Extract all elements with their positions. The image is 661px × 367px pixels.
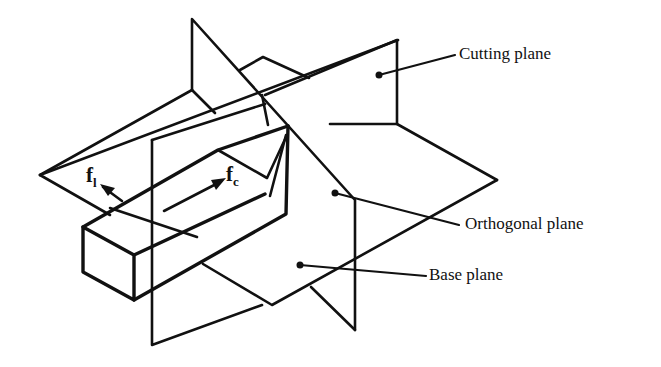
feed-force-label: fl: [86, 165, 97, 189]
cutting-plane-label: Cutting plane: [459, 45, 551, 62]
cutting-plane-leader: [376, 55, 456, 79]
base-plane-label: Base plane: [429, 266, 503, 283]
cutting-force-arrow: [164, 178, 226, 211]
cutting-force-symbol: f: [226, 162, 233, 186]
tool-body: [83, 126, 288, 300]
orthogonal-plane-label: Orthogonal plane: [465, 215, 584, 232]
feed-force-arrow: [100, 184, 122, 201]
tool-planes-diagram: [0, 0, 661, 367]
cutting-force-label: fc: [226, 164, 239, 188]
feed-force-subscript: l: [93, 175, 97, 190]
lower-plane-shape: [152, 104, 355, 345]
cutting-force-subscript: c: [233, 174, 239, 189]
feed-force-symbol: f: [86, 163, 93, 187]
base-plane-leader: [297, 262, 427, 277]
